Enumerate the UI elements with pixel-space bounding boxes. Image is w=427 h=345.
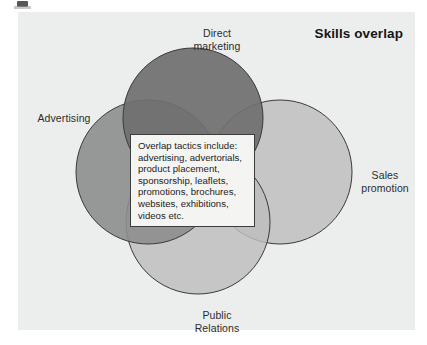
scan-artifact-smudge (14, 6, 31, 9)
venn-label-sales-promotion: Sales promotion (342, 169, 427, 194)
figure-title: Skills overlap (315, 26, 403, 41)
venn-label-public-relations: Public Relations (174, 309, 260, 334)
venn-label-advertising: Advertising (18, 112, 110, 125)
overlap-callout-text: Overlap tactics include: advertising, ad… (138, 140, 250, 221)
page-root: Direct marketing Advertising Sales promo… (0, 0, 427, 345)
figure-inner: Direct marketing Advertising Sales promo… (18, 12, 415, 330)
overlap-callout-box: Overlap tactics include: advertising, ad… (130, 134, 255, 227)
venn-label-direct-marketing: Direct marketing (174, 27, 260, 52)
venn-diagram-figure: Direct marketing Advertising Sales promo… (18, 12, 415, 330)
